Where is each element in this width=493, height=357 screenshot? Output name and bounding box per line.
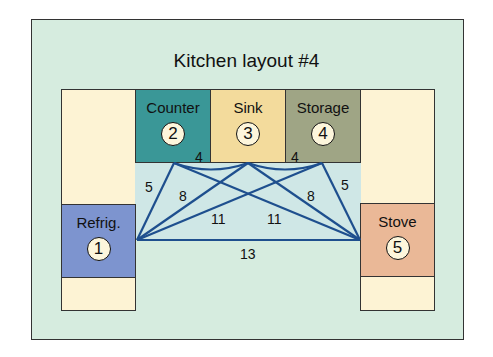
distance-label-2-5: 11 xyxy=(267,211,282,227)
distance-label-1-4: 11 xyxy=(211,211,226,227)
distance-label-3-4: 4 xyxy=(291,149,299,165)
distance-label-1-5: 13 xyxy=(240,246,256,262)
distance-label-1-2: 5 xyxy=(145,179,153,195)
distance-label-2-3: 4 xyxy=(195,149,203,165)
distance-label-1-3: 8 xyxy=(179,188,187,204)
distance-label-4-5: 5 xyxy=(341,177,349,193)
distance-label-3-5: 8 xyxy=(307,188,315,204)
distance-lines xyxy=(0,0,493,357)
